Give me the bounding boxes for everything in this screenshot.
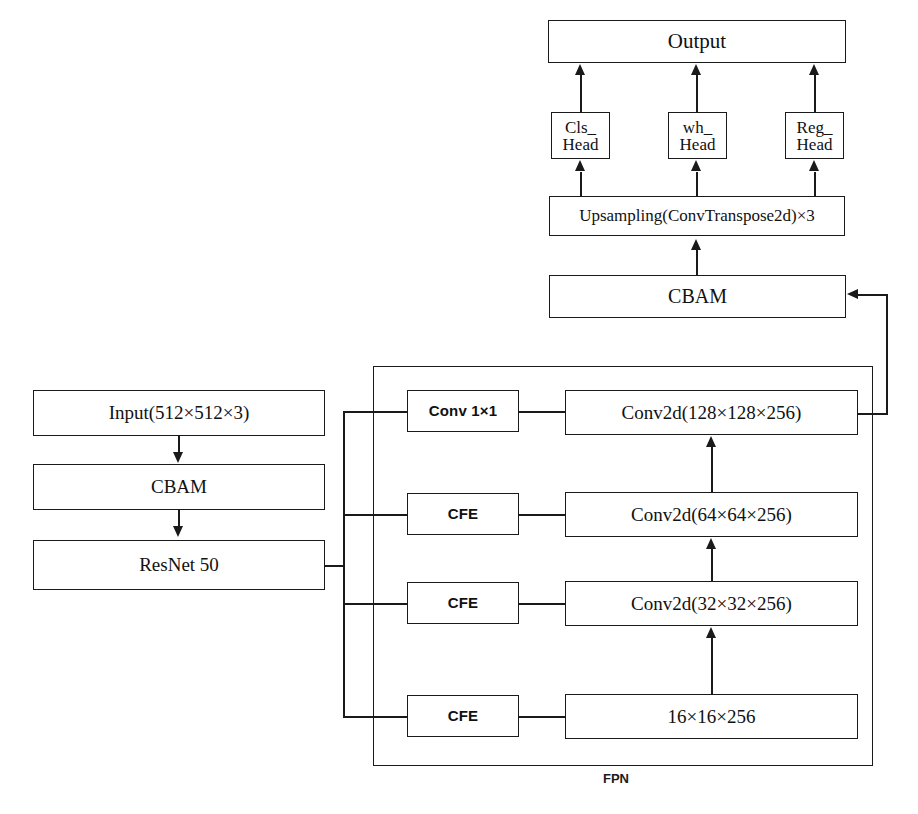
reg-head-label-line2: Head: [797, 136, 833, 153]
upsampling-to-cls-head-arrow: [575, 160, 585, 171]
resnet-label: ResNet 50: [139, 555, 219, 575]
wh-head-label-line1: wh_: [683, 119, 712, 136]
reg-head-label-line1: Reg_: [797, 119, 833, 136]
fpn-container-label: FPN: [603, 771, 629, 786]
reg-head-box: Reg_ Head: [785, 112, 844, 159]
fpn-lateral-op-4-label: CFE: [448, 708, 479, 724]
cbam-to-resnet-arrow: [173, 526, 183, 537]
upsampling-to-wh-head-line: [696, 172, 698, 196]
fpn-feature-3-label: Conv2d(32×32×256): [631, 594, 792, 614]
fpn-feature-1-label: Conv2d(128×128×256): [622, 403, 802, 423]
fpn-upward-line-3-to-2: [711, 549, 713, 581]
fpn-lateral-op-2-label: CFE: [448, 506, 479, 522]
input-label: Input(512×512×3): [109, 403, 250, 423]
fpn-to-cbam-bottom-segment: [857, 413, 888, 415]
fpn-upward-line-2-to-1: [711, 447, 713, 493]
fpn-feature-3: Conv2d(32×32×256): [565, 581, 858, 626]
bus-branch-1: [343, 411, 408, 413]
fpn-lateral-op-1-label: Conv 1×1: [429, 403, 498, 419]
cbam-to-upsampling-arrow: [691, 239, 701, 250]
resnet-to-bus-line: [325, 565, 345, 567]
architecture-diagram: Output Cls_ Head wh_ Head Reg_ Head Upsa…: [0, 0, 918, 814]
upsampling-to-cls-head-line: [580, 172, 582, 196]
cbam-to-upsampling-line: [696, 250, 698, 276]
fpn-upward-arrow-4-to-3: [706, 627, 716, 638]
cls-head-label-line1: Cls_: [565, 119, 596, 136]
input-box: Input(512×512×3): [33, 390, 325, 436]
fpn-upward-arrow-3-to-2: [706, 538, 716, 549]
fpn-lateral-op-3-label: CFE: [448, 595, 479, 611]
cls-head-label-line2: Head: [563, 136, 599, 153]
upsampling-box: Upsampling(ConvTranspose2d)×3: [549, 196, 845, 236]
input-to-cbam-arrow: [173, 452, 183, 463]
fpn-feature-4: 16×16×256: [565, 694, 858, 739]
output-box: Output: [548, 20, 846, 63]
wh-head-label-line2: Head: [680, 136, 716, 153]
fpn-to-cbam-riser: [886, 294, 888, 414]
reg-head-to-output-line: [814, 74, 816, 112]
fpn-feature-2-label: Conv2d(64×64×256): [631, 505, 792, 525]
wh-head-to-output-arrow: [691, 64, 701, 75]
fpn-feature-4-label: 16×16×256: [668, 707, 756, 727]
reg-head-to-output-arrow: [809, 64, 819, 75]
wh-head-box: wh_ Head: [668, 112, 727, 159]
cls-head-to-output-arrow: [575, 64, 585, 75]
backbone-distribution-bus: [343, 411, 345, 717]
upsampling-to-wh-head-arrow: [691, 160, 701, 171]
neck-cbam-label: CBAM: [668, 286, 727, 307]
fpn-link-4: [519, 716, 565, 718]
input-to-cbam-line: [178, 436, 180, 453]
fpn-upward-line-4-to-3: [711, 638, 713, 694]
cls-head-box: Cls_ Head: [551, 112, 610, 159]
fpn-link-1: [519, 411, 565, 413]
upsampling-to-reg-head-line: [814, 172, 816, 196]
fpn-link-3: [519, 603, 565, 605]
fpn-upward-arrow-2-to-1: [706, 436, 716, 447]
bus-branch-3: [343, 603, 408, 605]
upsampling-to-reg-head-arrow: [809, 160, 819, 171]
output-label: Output: [668, 30, 726, 52]
fpn-lateral-op-3: CFE: [407, 582, 519, 624]
backbone-cbam-label: CBAM: [151, 477, 207, 497]
resnet-box: ResNet 50: [33, 540, 325, 590]
fpn-link-2: [519, 514, 565, 516]
backbone-cbam-box: CBAM: [33, 464, 325, 510]
fpn-feature-2: Conv2d(64×64×256): [565, 492, 858, 537]
fpn-to-cbam-top-segment: [858, 294, 887, 296]
cbam-to-resnet-line: [178, 510, 180, 527]
upsampling-label: Upsampling(ConvTranspose2d)×3: [579, 207, 815, 225]
fpn-lateral-op-2: CFE: [407, 493, 519, 535]
bus-branch-2: [343, 514, 408, 516]
cls-head-to-output-line: [580, 74, 582, 112]
fpn-lateral-op-4: CFE: [407, 695, 519, 737]
fpn-feature-1: Conv2d(128×128×256): [565, 390, 858, 435]
wh-head-to-output-line: [696, 74, 698, 112]
bus-branch-4: [343, 716, 408, 718]
fpn-to-cbam-arrow: [847, 289, 858, 299]
neck-cbam-box: CBAM: [549, 275, 846, 318]
fpn-lateral-op-1: Conv 1×1: [407, 390, 519, 432]
